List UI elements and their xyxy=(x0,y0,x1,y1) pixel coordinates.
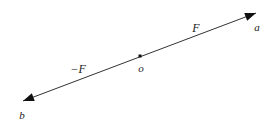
force-vector-diagram: a b o F −F xyxy=(0,0,276,125)
arrowhead-b-icon xyxy=(23,93,35,101)
label-vector-f: F xyxy=(192,22,199,34)
label-vector-negative-f: −F xyxy=(70,63,85,75)
label-point-o: o xyxy=(138,63,144,74)
label-point-b: b xyxy=(19,110,25,121)
origin-point-marker xyxy=(139,55,142,58)
label-point-a: a xyxy=(254,22,260,33)
